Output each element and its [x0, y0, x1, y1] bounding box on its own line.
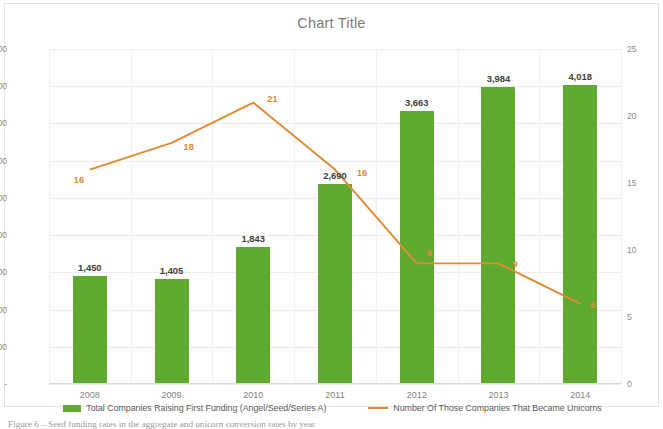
y-left-tick-label: 1,500 — [0, 267, 7, 277]
x-tick-label: 2014 — [540, 390, 620, 400]
y-right-tick-label: 5 — [627, 312, 661, 322]
bar-value-label: 3,663 — [387, 97, 447, 108]
x-tick-label: 2010 — [213, 390, 293, 400]
line-value-label: 21 — [267, 94, 277, 104]
x-tick-label: 2012 — [377, 390, 457, 400]
legend-label-bars: Total Companies Raising First Funding (A… — [86, 403, 326, 413]
legend-item-line[interactable]: Number Of Those Companies That Became Un… — [368, 403, 601, 413]
y-left-tick-label: 2,000 — [0, 230, 7, 240]
y-left-tick-label: 4,500 — [0, 44, 7, 54]
y-right-tick-label: 15 — [627, 178, 661, 188]
legend-label-line: Number Of Those Companies That Became Un… — [393, 403, 601, 413]
line-series — [49, 49, 621, 384]
y-left-tick-label: 3,500 — [0, 118, 7, 128]
legend-line-swatch-icon — [368, 407, 388, 410]
y-left-tick-label: 3,000 — [0, 156, 7, 166]
bar-value-label: 1,843 — [223, 233, 283, 244]
bar-value-label: 3,984 — [468, 73, 528, 84]
line-value-label: 9 — [512, 259, 517, 269]
bar-value-label: 1,450 — [60, 262, 120, 273]
line-value-label: 6 — [590, 300, 595, 310]
y-left-tick-label: - — [0, 379, 7, 389]
x-tick-label: 2013 — [458, 390, 538, 400]
line-value-label: 16 — [357, 168, 367, 178]
y-left-tick-label: 1,000 — [0, 305, 7, 315]
line-value-label: 18 — [184, 142, 194, 152]
y-left-tick-label: 4,000 — [0, 81, 7, 91]
bar-value-label: 4,018 — [550, 71, 610, 82]
gridline — [49, 384, 621, 385]
line-value-label: 16 — [74, 175, 84, 185]
y-left-tick-label: 2,500 — [0, 193, 7, 203]
x-axis-baseline — [49, 383, 621, 384]
plot-area — [49, 49, 621, 384]
x-tick-label: 2008 — [50, 390, 130, 400]
vertical-gridline — [621, 49, 622, 384]
line-value-label: 9 — [427, 248, 432, 258]
x-tick-label: 2011 — [295, 390, 375, 400]
y-right-tick-label: 0 — [627, 379, 661, 389]
y-right-tick-label: 10 — [627, 245, 661, 255]
y-right-tick-label: 25 — [627, 44, 661, 54]
chart-container: Chart Title -5001,0001,5002,0002,5003,00… — [4, 3, 659, 407]
y-right-tick-label: 20 — [627, 111, 661, 121]
y-left-tick-label: 500 — [0, 342, 7, 352]
x-tick-label: 2009 — [132, 390, 212, 400]
bar-value-label: 1,405 — [142, 265, 202, 276]
legend-item-bars[interactable]: Total Companies Raising First Funding (A… — [63, 403, 326, 413]
chart-title: Chart Title — [5, 15, 658, 31]
bar-value-label: 2,690 — [305, 170, 365, 181]
figure-caption: Figure 6 – Seed funding rates in the agg… — [8, 419, 315, 429]
legend-bar-swatch-icon — [63, 405, 81, 412]
chart-legend: Total Companies Raising First Funding (A… — [5, 403, 660, 413]
